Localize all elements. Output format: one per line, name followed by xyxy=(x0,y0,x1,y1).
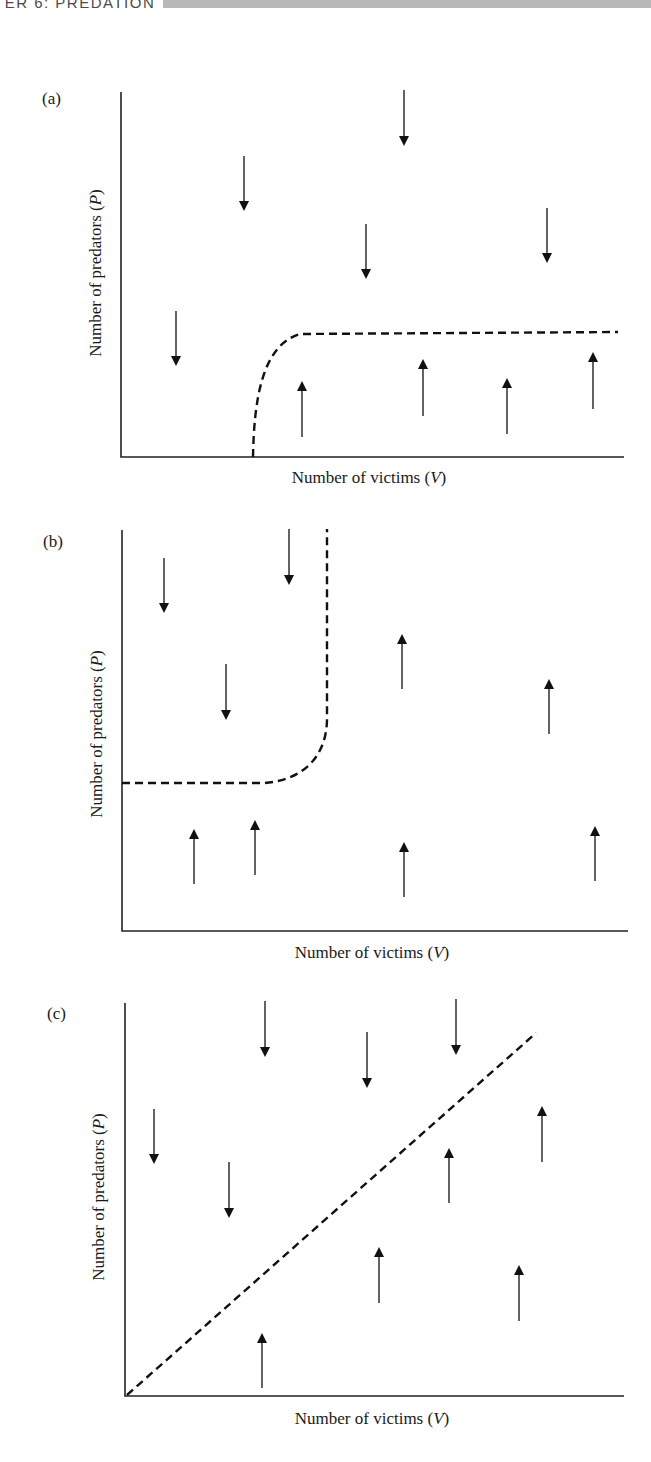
arrow-up-icon xyxy=(514,1265,524,1321)
panel-b-label: (b) xyxy=(43,532,63,551)
arrow-down-icon xyxy=(159,558,169,613)
arrow-up-icon xyxy=(250,820,260,875)
panel-b-arrows xyxy=(159,529,600,897)
arrow-down-icon xyxy=(260,1001,270,1057)
arrow-down-icon xyxy=(284,529,294,585)
arrow-down-icon xyxy=(451,999,461,1055)
panel-a-isocline xyxy=(253,332,618,457)
panel-b-x-axis-label: Number of victims (V) xyxy=(295,943,449,962)
panel-b-isocline xyxy=(122,529,327,783)
arrow-down-icon xyxy=(239,156,249,211)
arrow-down-icon xyxy=(362,1032,372,1088)
panel-c-label: (c) xyxy=(47,1004,66,1023)
arrow-down-icon xyxy=(361,224,371,279)
arrow-up-icon xyxy=(588,352,598,409)
arrow-up-icon xyxy=(399,842,409,897)
panel-b: (b) Number of victims (V) Number of pred… xyxy=(43,529,628,962)
arrow-down-icon xyxy=(149,1109,159,1164)
arrow-up-icon xyxy=(297,381,307,437)
panel-a-x-axis-label: Number of victims (V) xyxy=(292,468,446,487)
panel-a: (a) Number of victims (V) Number of pred… xyxy=(42,89,624,487)
panel-a-y-axis-label: Number of predators (P) xyxy=(86,189,105,357)
arrow-up-icon xyxy=(374,1247,384,1303)
panel-a-arrows xyxy=(171,90,598,437)
arrow-up-icon xyxy=(444,1148,454,1203)
arrow-down-icon xyxy=(224,1162,234,1218)
panel-b-axes xyxy=(122,530,628,931)
arrow-down-icon xyxy=(221,664,231,720)
arrow-down-icon xyxy=(399,90,409,146)
panel-c-x-axis-label: Number of victims (V) xyxy=(295,1409,449,1428)
panel-c: (c) Number of victims (V) Number of pred… xyxy=(47,999,624,1428)
arrow-up-icon xyxy=(257,1333,267,1388)
arrow-up-icon xyxy=(502,378,512,434)
arrow-down-icon xyxy=(542,208,552,263)
figure: (a) Number of victims (V) Number of pred… xyxy=(0,0,651,1462)
panel-a-label: (a) xyxy=(42,89,61,108)
panel-c-arrows xyxy=(149,999,547,1388)
arrow-up-icon xyxy=(189,829,199,884)
arrow-up-icon xyxy=(418,359,428,416)
arrow-up-icon xyxy=(537,1106,547,1162)
arrow-down-icon xyxy=(171,311,181,366)
panel-c-isocline xyxy=(127,1033,536,1395)
arrow-up-icon xyxy=(397,634,407,689)
arrow-up-icon xyxy=(590,826,600,881)
arrow-up-icon xyxy=(544,679,554,734)
panel-c-y-axis-label: Number of predators (P) xyxy=(89,1113,108,1281)
panel-b-y-axis-label: Number of predators (P) xyxy=(87,650,106,818)
panel-c-axes xyxy=(125,1003,624,1396)
panel-a-axes xyxy=(121,92,624,457)
